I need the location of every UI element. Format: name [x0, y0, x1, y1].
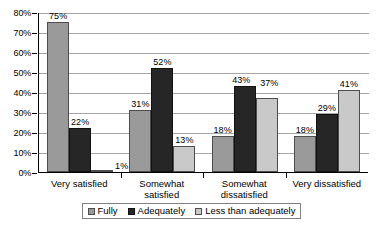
bar[interactable] [338, 90, 360, 172]
bar-value-label: 22% [71, 118, 89, 127]
legend-item[interactable]: Adequately [128, 206, 186, 216]
legend-swatch-icon [128, 208, 135, 215]
y-tick-mark [32, 53, 37, 54]
chart-legend: FullyAdequatelyLess than adequately [82, 203, 302, 219]
bar[interactable] [91, 170, 113, 172]
bar-slot: 37% [256, 13, 278, 172]
x-axis-label: Somewhat dissatisfied [203, 178, 286, 204]
legend-item[interactable]: Fully [88, 206, 118, 216]
y-tick-label: 60% [14, 49, 31, 58]
bar-slot: 18% [212, 13, 234, 172]
bar-slot: 22% [69, 13, 91, 172]
y-tick-label: 50% [14, 69, 31, 78]
bar-slot: 13% [173, 13, 195, 172]
legend-label: Adequately [138, 206, 186, 216]
bar-group: 31%52%13% [121, 13, 203, 172]
bar-group: 18%29%41% [286, 13, 368, 172]
bar-slot: 31% [129, 13, 151, 172]
y-tick-mark [32, 173, 37, 174]
bar-chart: 80%70%60%50%40%30%20%10%0% 75%22%1%31%52… [0, 0, 383, 230]
bar[interactable] [151, 68, 173, 172]
bar[interactable] [316, 114, 338, 172]
y-tick-mark [32, 113, 37, 114]
legend-item[interactable]: Less than adequately [195, 206, 295, 216]
bar[interactable] [294, 136, 316, 172]
bar-value-label: 18% [296, 126, 314, 135]
bar-slot: 18% [294, 13, 316, 172]
bar[interactable] [256, 98, 278, 172]
plot-area: 75%22%1%31%52%13%18%43%37%18%29%41% [38, 13, 368, 173]
bar-value-label: 18% [214, 126, 232, 135]
bar-value-label: 75% [49, 12, 67, 21]
bar[interactable] [234, 86, 256, 172]
legend-swatch-icon [195, 208, 202, 215]
y-tick-mark [32, 93, 37, 94]
bar-value-label: 37% [260, 79, 278, 88]
y-tick-label: 70% [14, 29, 31, 38]
bar[interactable] [212, 136, 234, 172]
bar-value-label: 52% [153, 58, 171, 67]
y-tick-mark [32, 153, 37, 154]
bar-slot: 41% [338, 13, 360, 172]
bar-value-label: 43% [232, 76, 250, 85]
bar[interactable] [173, 146, 195, 172]
bar-group: 75%22%1% [39, 13, 121, 172]
bar-groups-container: 75%22%1%31%52%13%18%43%37%18%29%41% [39, 13, 368, 172]
y-tick-label: 80% [14, 9, 31, 18]
bar-slot: 75% [47, 13, 69, 172]
bar-slot: 52% [151, 13, 173, 172]
y-axis: 80%70%60%50%40%30%20%10%0% [0, 0, 36, 175]
bar-slot: 43% [234, 13, 256, 172]
y-tick-label: 40% [14, 89, 31, 98]
legend-label: Less than adequately [205, 206, 295, 216]
bar-value-label: 29% [318, 104, 336, 113]
y-tick-label: 10% [14, 149, 31, 158]
legend-label: Fully [98, 206, 118, 216]
bar[interactable] [129, 110, 151, 172]
y-tick-label: 20% [14, 129, 31, 138]
x-axis-labels: Very satisfiedSomewhat satisfiedSomewhat… [38, 178, 368, 204]
y-tick-mark [32, 73, 37, 74]
y-tick-label: 0% [18, 169, 31, 178]
bar-value-label: 31% [131, 100, 149, 109]
y-tick-mark [32, 13, 37, 14]
x-axis-label: Very satisfied [38, 178, 121, 204]
bar[interactable] [47, 22, 69, 172]
legend-swatch-icon [88, 208, 95, 215]
x-axis-label: Somewhat satisfied [121, 178, 204, 204]
bar-value-label: 41% [340, 80, 358, 89]
bar[interactable] [69, 128, 91, 172]
y-tick-mark [32, 33, 37, 34]
bar-slot: 29% [316, 13, 338, 172]
y-tick-mark [32, 133, 37, 134]
bar-value-label: 13% [175, 136, 193, 145]
bar-slot: 1% [91, 13, 113, 172]
y-tick-label: 30% [14, 109, 31, 118]
bar-group: 18%43%37% [204, 13, 286, 172]
x-axis-label: Very dissatisfied [286, 178, 369, 204]
